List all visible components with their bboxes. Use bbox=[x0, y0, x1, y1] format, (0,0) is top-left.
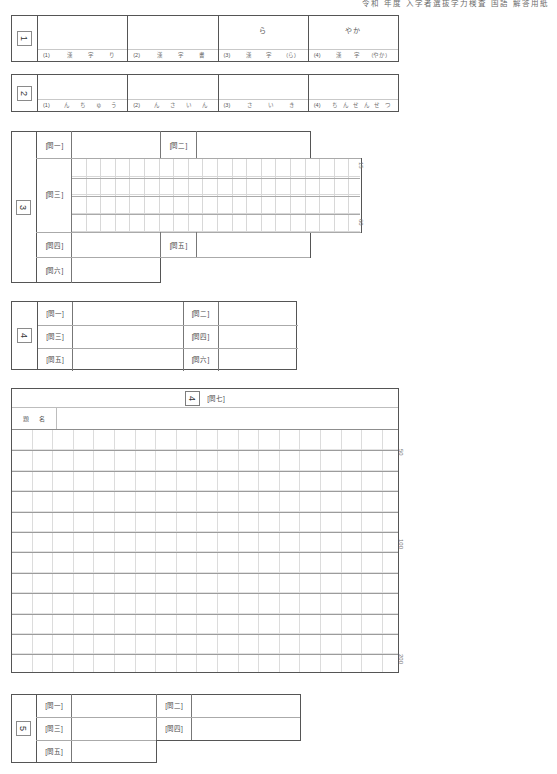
cell-footer: (3) 漢 字 (ら) bbox=[219, 49, 308, 60]
section-1: 1 (1) 漢 字 り (2) 漢 bbox=[11, 15, 399, 62]
cell-divider bbox=[196, 131, 197, 158]
answer-field[interactable] bbox=[71, 694, 156, 717]
furigana-char: ん bbox=[364, 101, 370, 109]
question-number: (3) bbox=[224, 102, 234, 108]
furigana-char: (やか) bbox=[371, 51, 387, 59]
manuscript-cells[interactable] bbox=[12, 430, 398, 672]
furigana-char: ん bbox=[154, 101, 160, 109]
answer-value bbox=[38, 20, 127, 40]
question-label: [問四] bbox=[157, 717, 191, 740]
section-2-number-spine: 2 bbox=[12, 75, 38, 111]
frame-edge bbox=[156, 740, 157, 764]
furigana-char: ん bbox=[343, 101, 349, 109]
furigana-char: (ら) bbox=[286, 51, 296, 59]
question-number: (3) bbox=[224, 52, 234, 58]
frame-edge bbox=[156, 740, 301, 741]
answer-field[interactable] bbox=[218, 348, 298, 371]
grid-rule bbox=[12, 450, 398, 451]
furigana-char: 字 bbox=[178, 51, 184, 59]
title-label-char: 題 bbox=[23, 414, 29, 423]
answer-field[interactable] bbox=[191, 717, 299, 740]
cell-footer: (4) 漢 字 (やか) bbox=[309, 49, 398, 60]
section-4: 4 [問一] [問二] [問三] [問四] [問五] [問六] bbox=[11, 301, 297, 370]
section-3-number-spine: 3 bbox=[11, 131, 36, 283]
question-label: [問五] bbox=[38, 348, 72, 371]
question-number: (4) bbox=[314, 52, 324, 58]
cell-footer: (3) さ い き bbox=[219, 99, 308, 110]
section-number: 5 bbox=[16, 721, 31, 736]
answer-cell[interactable]: (1) ん ち ゅ う bbox=[38, 75, 128, 111]
composition-title-row[interactable]: 題 名 bbox=[12, 408, 398, 430]
grid-rule bbox=[72, 178, 360, 179]
furigana-char: ん bbox=[64, 101, 70, 109]
grid-rule bbox=[12, 491, 398, 492]
grid-rule bbox=[12, 512, 398, 513]
section-1-number-spine: 1 bbox=[12, 16, 38, 61]
grid-rule bbox=[12, 532, 398, 533]
composition-grid[interactable] bbox=[12, 430, 398, 672]
frame-edge bbox=[310, 131, 311, 159]
composition-heading: 4 [問七] bbox=[12, 389, 398, 408]
answer-cell[interactable]: (4) ち ん せ ん せ つ bbox=[309, 75, 398, 111]
question-label: [問五] bbox=[37, 740, 71, 762]
count-mark: 50 bbox=[398, 449, 404, 456]
title-input-field[interactable] bbox=[57, 408, 398, 429]
question-number: (1) bbox=[43, 102, 53, 108]
count-mark: 100 bbox=[398, 539, 404, 549]
question-label: [問二] bbox=[161, 137, 196, 152]
answer-cell[interactable]: (3) さ い き bbox=[219, 75, 309, 111]
answer-sheet: 令和 年度 入学者選抜学力検査 国語 解答用紙 1 (1) 漢 字 り bbox=[0, 0, 557, 774]
section-composition: 4 [問七] 題 名 50 100 200 bbox=[11, 388, 399, 673]
answer-field[interactable] bbox=[191, 694, 299, 717]
furigana-char: い bbox=[186, 101, 192, 109]
question-number: (4) bbox=[314, 102, 324, 108]
cell-footer: (4) ち ん せ ん せ つ bbox=[309, 99, 398, 110]
section-number: 4 bbox=[17, 328, 32, 343]
grid-rule bbox=[12, 573, 398, 574]
answer-cell[interactable]: やか (4) 漢 字 (やか) bbox=[309, 16, 398, 61]
section-number: 3 bbox=[16, 200, 31, 215]
count-mark: 60 bbox=[358, 219, 364, 226]
frame-edge bbox=[310, 232, 311, 258]
furigana-char: 漢 bbox=[157, 51, 163, 59]
answer-value bbox=[128, 20, 217, 40]
answer-field[interactable] bbox=[71, 740, 156, 762]
title-label-char: 名 bbox=[39, 414, 45, 423]
furigana-char: 漢 bbox=[246, 51, 252, 59]
furigana-char: り bbox=[109, 51, 115, 59]
count-mark: 200 bbox=[398, 654, 404, 664]
frame-edge bbox=[160, 257, 161, 283]
count-mark: 15 bbox=[358, 162, 364, 169]
furigana-char: ち bbox=[80, 101, 86, 109]
furigana-char: ん bbox=[202, 101, 208, 109]
grid-rule bbox=[12, 654, 398, 655]
furigana-char: さ bbox=[247, 101, 253, 109]
answer-field[interactable] bbox=[72, 325, 183, 348]
answer-field[interactable] bbox=[72, 348, 183, 371]
question-label: [問七] bbox=[207, 393, 225, 403]
section-number: 2 bbox=[17, 86, 32, 101]
answer-cell[interactable]: (2) 漢 字 書 bbox=[128, 16, 218, 61]
furigana-char: 字 bbox=[266, 51, 272, 59]
question-label: [問三] bbox=[38, 186, 71, 201]
furigana-char: 書 bbox=[199, 51, 205, 59]
furigana-char: ち bbox=[332, 101, 338, 109]
answer-value: ら bbox=[219, 20, 308, 40]
section-5: 5 [問一] [問二] [問三] [問四] [問五] bbox=[11, 694, 301, 763]
furigana-char: う bbox=[111, 101, 117, 109]
answer-cell[interactable]: (1) 漢 字 り bbox=[38, 16, 128, 61]
grid-rule bbox=[12, 552, 398, 553]
question-label: [問五] bbox=[161, 237, 196, 252]
furigana-char: さ bbox=[170, 101, 176, 109]
furigana-char: 字 bbox=[88, 51, 94, 59]
answer-cell[interactable]: ら (3) 漢 字 (ら) bbox=[219, 16, 309, 61]
question-label: [問四] bbox=[183, 325, 218, 348]
answer-cell[interactable]: (2) ん さ い ん bbox=[128, 75, 218, 111]
answer-field[interactable] bbox=[218, 302, 298, 325]
answer-field[interactable] bbox=[72, 302, 183, 325]
answer-field[interactable] bbox=[218, 325, 298, 348]
answer-field[interactable] bbox=[71, 717, 156, 740]
question-label: [問一] bbox=[38, 137, 71, 152]
question-label: [問四] bbox=[38, 237, 71, 252]
question-label: [問一] bbox=[37, 694, 71, 717]
